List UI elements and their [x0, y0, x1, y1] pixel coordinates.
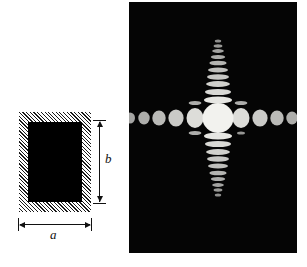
diffraction-lobe: [237, 131, 245, 134]
arrow-left-icon: [19, 222, 25, 228]
diffraction-lobe: [203, 103, 234, 133]
dimension-b-tick-bottom: [93, 203, 106, 204]
diffraction-pattern-panel: [129, 2, 297, 253]
diffraction-lobe: [212, 49, 224, 53]
diffraction-lobe: [138, 112, 149, 125]
diffraction-lobe: [187, 108, 204, 128]
dimension-b-label: b: [105, 152, 112, 165]
aperture-diagram-panel: b a: [0, 0, 128, 267]
diffraction-lobe: [208, 68, 228, 73]
diffraction-lobe: [208, 164, 228, 169]
diffraction-lobe: [209, 171, 226, 176]
diffraction-lobe: [205, 89, 231, 95]
aperture-opening-rectangle: [28, 122, 82, 202]
diffraction-lobe: [252, 109, 267, 126]
diffraction-figure: b a: [0, 0, 307, 267]
dimension-b-line: [99, 122, 100, 202]
diffraction-lobe: [270, 111, 283, 126]
arrow-down-icon: [97, 196, 103, 202]
diffraction-lobe: [168, 109, 183, 126]
diffraction-lobe: [215, 194, 221, 197]
arrow-up-icon: [97, 121, 103, 127]
dimension-a-label: a: [50, 228, 57, 241]
arrow-right-icon: [85, 222, 91, 228]
diffraction-lobe: [206, 81, 230, 87]
diffraction-lobe: [189, 101, 202, 105]
diffraction-lobe: [189, 131, 202, 135]
diffraction-lobe: [204, 132, 232, 139]
diffraction-lobe: [212, 183, 224, 187]
diffraction-lobe: [207, 156, 229, 161]
dimension-a-line: [20, 224, 90, 225]
diffraction-pattern-svg: [129, 2, 297, 253]
diffraction-lobe: [152, 111, 165, 126]
diffraction-lobe: [214, 44, 223, 47]
dimension-a: a: [18, 220, 94, 242]
diffraction-lobe: [206, 149, 230, 155]
diffraction-lobe: [215, 40, 221, 43]
dimension-b: b: [95, 120, 117, 204]
diffraction-lobe: [205, 141, 231, 147]
dimension-a-tick-right: [91, 218, 92, 231]
diffraction-lobe: [204, 96, 232, 103]
diffraction-lobe: [214, 188, 223, 191]
aperture-screen-hatched: [19, 112, 91, 212]
diffraction-lobe: [207, 74, 229, 79]
diffraction-lobe: [211, 177, 225, 181]
diffraction-lobe: [211, 55, 225, 59]
diffraction-lobe: [209, 61, 226, 66]
diffraction-lobe: [233, 108, 250, 128]
diffraction-lobe: [235, 101, 248, 105]
